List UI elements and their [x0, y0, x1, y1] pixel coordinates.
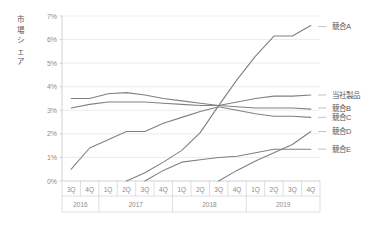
- x-tick-label-quarter: 3Q: [214, 186, 223, 194]
- y-tick-label: 7%: [47, 13, 57, 20]
- x-tick-label-quarter: 4Q: [85, 186, 94, 194]
- y-tick-labels-group: 0%1%2%3%4%5%6%7%: [47, 13, 57, 185]
- y-axis-title: 市場シェア: [17, 14, 25, 66]
- x-tick-label-quarter: 3Q: [288, 186, 297, 194]
- y-tick-label: 6%: [47, 36, 57, 43]
- series-label-競合E: 競合E: [332, 144, 351, 154]
- x-tick-label-quarter: 1Q: [104, 186, 113, 194]
- series-label-競合B: 競合B: [332, 103, 351, 113]
- gridlines-group: [62, 16, 320, 157]
- x-tick-label-quarter: 4Q: [233, 186, 242, 194]
- y-tick-label: 0%: [47, 178, 57, 185]
- x-tick-label-year: 2016: [73, 201, 88, 208]
- series-label-競合A: 競合A: [332, 21, 351, 31]
- series-labels-group: 競合A当社製品競合B競合C競合D競合E: [318, 21, 360, 154]
- x-tick-label-year: 2019: [276, 201, 291, 208]
- x-tick-label-year: 2018: [202, 201, 217, 208]
- x-tick-label-quarter: 1Q: [177, 186, 186, 194]
- chart-canvas: 0%1%2%3%4%5%6%7% 3Q4Q1Q2Q3Q4Q1Q2Q3Q4Q1Q2…: [0, 0, 384, 226]
- x-tick-label-quarter: 2Q: [122, 186, 131, 194]
- y-tick-label: 3%: [47, 107, 57, 114]
- x-tick-label-quarter: 4Q: [159, 186, 168, 194]
- y-tick-label: 5%: [47, 60, 57, 67]
- series-line-1: [71, 95, 311, 108]
- series-line-3: [71, 107, 311, 169]
- series-label-当社製品: 当社製品: [332, 90, 360, 100]
- axis-group: [60, 16, 321, 181]
- y-tick-label: 2%: [47, 130, 57, 137]
- series-line-2: [71, 93, 311, 110]
- x-tick-label-quarter: 2Q: [270, 186, 279, 194]
- x-tick-label-quarter: 4Q: [306, 186, 315, 194]
- series-label-競合D: 競合D: [332, 126, 352, 136]
- y-tick-label: 4%: [47, 83, 57, 90]
- x-tick-label-quarter: 2Q: [196, 186, 205, 194]
- line-chart-container: 0%1%2%3%4%5%6%7% 3Q4Q1Q2Q3Q4Q1Q2Q3Q4Q1Q2…: [0, 0, 384, 226]
- series-label-競合C: 競合C: [332, 112, 352, 122]
- y-tick-label: 1%: [47, 154, 57, 161]
- x-tick-label-quarter: 3Q: [141, 186, 150, 194]
- x-tick-label-quarter: 3Q: [67, 186, 76, 194]
- x-tick-label-quarter: 1Q: [251, 186, 260, 194]
- x-axis-table-group: 3Q4Q1Q2Q3Q4Q1Q2Q3Q4Q1Q2Q3Q4Q201620172018…: [62, 181, 320, 212]
- x-tick-label-year: 2017: [128, 201, 143, 208]
